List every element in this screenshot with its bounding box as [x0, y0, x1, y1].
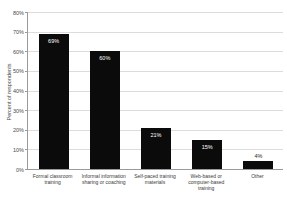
y-tick-mark [25, 169, 28, 170]
y-tick-mark [25, 110, 28, 111]
bar [243, 161, 273, 169]
y-tick-label: 70% [0, 29, 24, 36]
y-tick-mark [25, 71, 28, 72]
bar [39, 34, 69, 169]
y-tick-label: 20% [0, 127, 24, 134]
x-axis-labels: Formal classroom trainingInformal inform… [27, 173, 283, 195]
y-tick-mark [25, 91, 28, 92]
bar-value-label: 60% [79, 55, 130, 61]
bar-value-label: 69% [28, 38, 79, 44]
x-tick-label: Self-paced training materials [129, 173, 180, 195]
bar-slot: 21% [130, 13, 181, 169]
x-tick-label: Informal information sharing or coaching [78, 173, 129, 195]
y-tick-label: 50% [0, 68, 24, 75]
x-tick-label: Web-based or computer-based training [181, 173, 232, 195]
y-tick-mark [25, 149, 28, 150]
x-tick-label: Formal classroom training [27, 173, 78, 195]
y-tick-label: 10% [0, 147, 24, 154]
x-tick-label: Other [232, 173, 283, 195]
y-tick-label: 60% [0, 49, 24, 56]
y-tick-mark [25, 32, 28, 33]
y-tick-mark [25, 130, 28, 131]
y-tick-mark [25, 12, 28, 13]
bar-value-label: 21% [130, 132, 181, 138]
y-tick-label: 80% [0, 10, 24, 17]
y-tick-label: 30% [0, 108, 24, 115]
bar-slot: 60% [79, 13, 130, 169]
bar [90, 51, 120, 169]
bar-value-label: 4% [233, 153, 284, 159]
y-tick-label: 0% [0, 167, 24, 174]
y-tick-mark [25, 51, 28, 52]
bar-slot: 69% [28, 13, 79, 169]
bar-chart-figure: Percent of respondents 0%10%20%30%40%50%… [0, 0, 287, 198]
bar-value-label: 15% [182, 144, 233, 150]
y-tick-label: 40% [0, 88, 24, 95]
bar-slot: 4% [233, 13, 284, 169]
plot-area: 69%60%21%15%4% [27, 13, 283, 170]
bar-slot: 15% [182, 13, 233, 169]
